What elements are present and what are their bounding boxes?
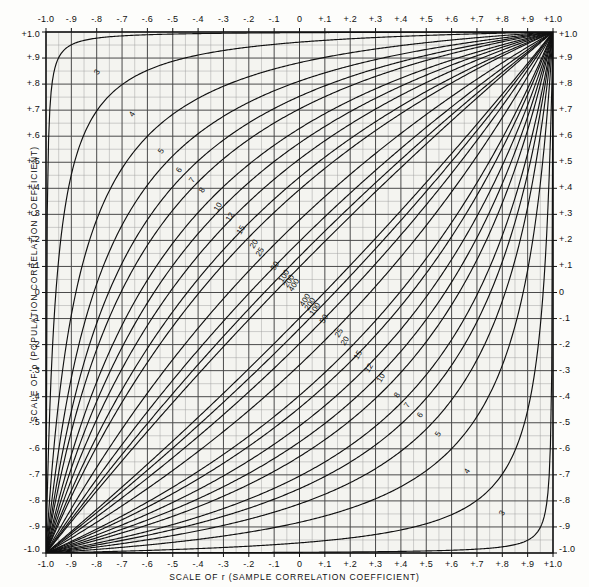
axis-tick-label: -.2	[243, 559, 254, 569]
axis-tick-label: -.7	[116, 14, 127, 24]
axis-tick-label: +.8	[27, 78, 40, 88]
axis-tick-label: -.6	[29, 443, 40, 453]
axis-tick-label: +.2	[344, 559, 357, 569]
axis-tick-label: -.3	[218, 559, 229, 569]
axis-tick-label: +.1	[318, 14, 331, 24]
axis-tick-label: -.8	[29, 495, 40, 505]
axis-tick-label: -.8	[559, 495, 570, 505]
axis-tick-label: +.1	[318, 559, 331, 569]
axis-tick-label: +.3	[559, 208, 572, 218]
axis-tick-label: +.9	[27, 52, 40, 62]
axis-tick-label: +.4	[559, 182, 572, 192]
axis-tick-label: +1.0	[21, 29, 40, 39]
x-axis-caption: SCALE OF r (SAMPLE CORRELATION COEFFICIE…	[169, 572, 420, 582]
axis-tick-label: -.5	[559, 417, 570, 427]
axis-tick-label: -.6	[142, 14, 153, 24]
chart-canvas	[0, 0, 589, 587]
axis-tick-label: +.5	[420, 559, 433, 569]
y-axis-caption: SCALE OF ρ (POPULATION CORRELATION COEFF…	[29, 162, 39, 422]
axis-tick-label: 0	[559, 287, 564, 297]
axis-tick-label: +.4	[394, 559, 407, 569]
axis-tick-label: +.6	[559, 130, 572, 140]
axis-tick-label: -1.0	[24, 544, 40, 554]
axis-tick-label: -1.0	[559, 544, 575, 554]
axis-tick-label: 0	[297, 559, 302, 569]
axis-tick-label: +.4	[394, 14, 407, 24]
axis-tick-label: +.7	[27, 104, 40, 114]
axis-tick-label: -.1	[559, 313, 570, 323]
axis-tick-label: -.3	[559, 365, 570, 375]
axis-tick-label: -.7	[559, 469, 570, 479]
axis-tick-label: +.8	[496, 559, 509, 569]
axis-tick-label: -.6	[142, 559, 153, 569]
axis-tick-label: -.5	[167, 559, 178, 569]
axis-tick-label: +.7	[559, 104, 572, 114]
axis-tick-label: -.9	[66, 559, 77, 569]
axis-tick-label: +1.0	[544, 14, 563, 24]
axis-tick-label: +.2	[559, 234, 572, 244]
axis-tick-label: -.2	[559, 339, 570, 349]
axis-tick-label: +.6	[445, 14, 458, 24]
axis-tick-label: -.7	[116, 559, 127, 569]
axis-tick-label: -.4	[193, 559, 204, 569]
axis-tick-label: +.8	[559, 78, 572, 88]
axis-tick-label: -.8	[91, 14, 102, 24]
axis-tick-label: +.9	[521, 14, 534, 24]
axis-tick-label: +.3	[369, 14, 382, 24]
axis-tick-label: -.9	[559, 521, 570, 531]
axis-tick-label: -.6	[559, 443, 570, 453]
axis-tick-label: +.7	[470, 559, 483, 569]
axis-tick-label: -.8	[91, 559, 102, 569]
major-gridlines	[46, 32, 553, 553]
axis-tick-label: -.4	[193, 14, 204, 24]
axis-tick-label: +.6	[445, 559, 458, 569]
axis-tick-label: +1.0	[544, 559, 563, 569]
axis-tick-label: +.5	[420, 14, 433, 24]
axis-tick-label: -.4	[559, 391, 570, 401]
axis-tick-label: +.6	[27, 130, 40, 140]
axis-tick-label: -.7	[29, 469, 40, 479]
axis-tick-label: -.3	[218, 14, 229, 24]
axis-tick-label: +.8	[496, 14, 509, 24]
axis-tick-label: -.1	[269, 559, 280, 569]
axis-tick-label: +1.0	[559, 29, 578, 39]
axis-tick-label: +.9	[521, 559, 534, 569]
axis-tick-label: -.2	[243, 14, 254, 24]
axis-tick-label: +.1	[559, 260, 572, 270]
axis-tick-label: +.3	[369, 559, 382, 569]
axis-tick-label: -.1	[269, 14, 280, 24]
axis-tick-label: -1.0	[38, 559, 54, 569]
axis-tick-label: -.9	[29, 521, 40, 531]
axis-tick-label: +.9	[559, 52, 572, 62]
axis-tick-label: +.7	[470, 14, 483, 24]
axis-tick-label: -.5	[167, 14, 178, 24]
axis-tick-label: +.5	[559, 156, 572, 166]
axis-tick-label: 0	[297, 14, 302, 24]
axis-tick-label: -1.0	[38, 14, 54, 24]
axis-tick-label: +.2	[344, 14, 357, 24]
axis-tick-label: -.9	[66, 14, 77, 24]
correlation-confidence-belt-chart: -1.0-.9-.8-.7-.6-.5-.4-.3-.2-.10+.1+.2+.…	[0, 0, 589, 587]
